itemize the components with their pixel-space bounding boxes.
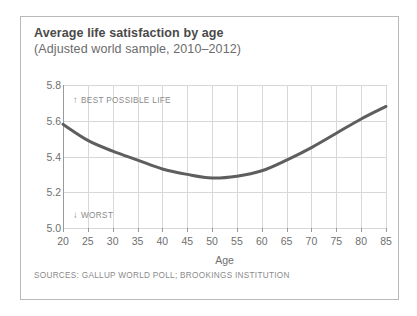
x-axis-tick-label: 60 (249, 235, 275, 247)
gridline-h (63, 228, 386, 229)
y-axis-tick-label: 5.4 (21, 151, 61, 163)
x-axis-tick-label: 20 (50, 235, 76, 247)
arrow-down-icon: ↓ (73, 209, 78, 220)
x-axis-tick (336, 228, 337, 232)
chart-title: Average life satisfaction by age (34, 26, 224, 40)
x-axis-tick (361, 228, 362, 232)
chart-card: Average life satisfaction by age (Adjust… (20, 16, 399, 300)
chart-subtitle: (Adjusted world sample, 2010–2012) (34, 42, 241, 56)
x-axis-tick (287, 228, 288, 232)
arrow-up-icon: ↑ (73, 94, 78, 105)
x-axis-tick-label: 25 (75, 235, 101, 247)
y-axis-tick-label: 5.6 (21, 115, 61, 127)
x-axis-tick-label: 85 (373, 235, 399, 247)
life-satisfaction-curve (63, 85, 386, 228)
x-axis-tick-label: 70 (298, 235, 324, 247)
y-axis-tick-label: 5.0 (21, 222, 61, 234)
x-axis-tick-label: 75 (323, 235, 349, 247)
x-axis-tick (386, 228, 387, 232)
x-axis-tick-label: 40 (149, 235, 175, 247)
plot-area: 5.05.25.45.65.8 202530354045505560657075… (63, 85, 386, 228)
x-axis-title: Age (63, 254, 386, 266)
x-axis-tick (237, 228, 238, 232)
x-axis-tick-label: 65 (274, 235, 300, 247)
x-axis-tick-label: 45 (174, 235, 200, 247)
x-axis-tick-label: 50 (199, 235, 225, 247)
x-axis-tick (162, 228, 163, 232)
x-axis-tick-label: 55 (224, 235, 250, 247)
x-axis-tick (138, 228, 139, 232)
x-axis-tick (88, 228, 89, 232)
annotation-best-possible-life: ↑BEST POSSIBLE LIFE (73, 94, 171, 105)
x-axis-tick (187, 228, 188, 232)
x-axis-tick (212, 228, 213, 232)
x-axis-tick-label: 80 (348, 235, 374, 247)
x-axis-tick (113, 228, 114, 232)
x-axis-tick (311, 228, 312, 232)
annotation-top-label: BEST POSSIBLE LIFE (81, 96, 171, 105)
y-axis-tick-label: 5.8 (21, 79, 61, 91)
x-axis-tick-label: 35 (125, 235, 151, 247)
source-note: SOURCES: GALLUP WORLD POLL; BROOKINGS IN… (34, 271, 290, 280)
annotation-bottom-label: WORST (81, 211, 113, 220)
y-axis-tick-label: 5.2 (21, 186, 61, 198)
x-axis-tick (262, 228, 263, 232)
x-axis-tick (63, 228, 64, 232)
annotation-worst: ↓WORST (73, 209, 113, 220)
x-axis-tick-label: 30 (100, 235, 126, 247)
